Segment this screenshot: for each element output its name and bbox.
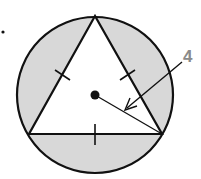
bullet-dot [1,30,4,33]
radius-length-label: 4 [183,47,193,66]
geometry-diagram: 4 [0,0,201,179]
